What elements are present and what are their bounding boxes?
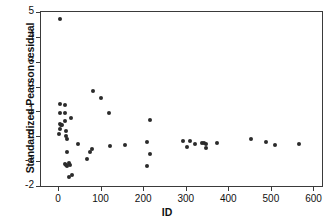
- y-tick-label: 2: [12, 80, 34, 91]
- data-point: [185, 145, 189, 149]
- data-point: [58, 102, 62, 106]
- x-tick-mark: [186, 186, 187, 191]
- y-tick-label: 0: [12, 129, 34, 140]
- data-point: [90, 147, 94, 151]
- data-point: [145, 140, 149, 144]
- data-point: [249, 137, 253, 141]
- x-tick-label: 200: [128, 193, 158, 204]
- x-tick-label: 600: [298, 193, 328, 204]
- data-point: [58, 127, 62, 131]
- data-point: [215, 141, 219, 145]
- data-point: [193, 142, 197, 146]
- y-tick-label: 1: [12, 104, 34, 115]
- plot-area: -2-1012345 0100200300400500600: [40, 11, 323, 187]
- data-point: [58, 17, 62, 21]
- data-point: [123, 143, 127, 147]
- data-point: [148, 152, 152, 156]
- data-point: [297, 142, 301, 146]
- x-tick-label: 400: [213, 193, 243, 204]
- y-tick-mark: [36, 136, 41, 137]
- x-tick-label: 0: [43, 193, 73, 204]
- x-tick-label: 500: [256, 193, 286, 204]
- data-point: [65, 137, 69, 141]
- x-tick-label: 300: [171, 193, 201, 204]
- data-point: [63, 119, 67, 123]
- x-tick-label: 100: [86, 193, 116, 204]
- y-tick-mark: [36, 37, 41, 38]
- data-point: [91, 89, 95, 93]
- data-point: [63, 103, 67, 107]
- data-point: [204, 146, 208, 150]
- data-point: [85, 157, 89, 161]
- data-point: [65, 150, 69, 154]
- data-point: [69, 116, 73, 120]
- y-tick-label: -1: [12, 154, 34, 165]
- data-point: [68, 163, 72, 167]
- y-tick-label: 3: [12, 55, 34, 66]
- data-point: [145, 164, 149, 168]
- x-axis-label: ID: [0, 206, 334, 218]
- data-point: [107, 111, 111, 115]
- x-tick-mark: [143, 186, 144, 191]
- y-tick-label: -2: [12, 179, 34, 190]
- data-point: [264, 140, 268, 144]
- scatter-plot-figure: Standardized Pearson residual -2-1012345…: [0, 0, 334, 223]
- x-tick-mark: [58, 186, 59, 191]
- y-tick-mark: [36, 111, 41, 112]
- data-point: [273, 143, 277, 147]
- x-tick-mark: [313, 186, 314, 191]
- x-tick-mark: [101, 186, 102, 191]
- data-point: [57, 132, 61, 136]
- y-tick-mark: [36, 62, 41, 63]
- y-tick-mark: [36, 87, 41, 88]
- y-tick-mark: [36, 161, 41, 162]
- data-point: [64, 129, 68, 133]
- data-point: [99, 96, 103, 100]
- data-point: [63, 111, 67, 115]
- y-tick-label: 4: [12, 30, 34, 41]
- data-point: [148, 118, 152, 122]
- x-tick-mark: [271, 186, 272, 191]
- data-point: [70, 173, 74, 177]
- data-point: [188, 139, 192, 143]
- y-tick-label: 5: [12, 5, 34, 16]
- y-tick-mark: [36, 12, 41, 13]
- x-tick-mark: [228, 186, 229, 191]
- data-point: [181, 139, 185, 143]
- data-point: [76, 142, 80, 146]
- y-tick-mark: [36, 186, 41, 187]
- data-point: [108, 144, 112, 148]
- data-point: [58, 111, 62, 115]
